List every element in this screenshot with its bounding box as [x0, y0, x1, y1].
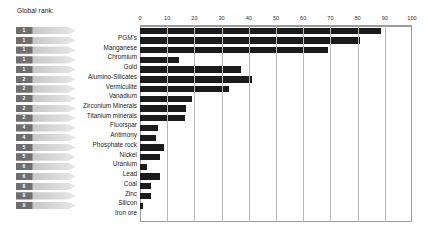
bar: [140, 154, 160, 160]
plot-area: [140, 26, 412, 222]
bar: [140, 105, 186, 111]
bar: [140, 76, 252, 82]
bar: [140, 203, 143, 209]
x-tick-label: 20: [191, 15, 197, 21]
bar: [140, 47, 328, 53]
rank-value: 2: [16, 76, 32, 83]
gridline: [249, 26, 250, 222]
bar: [140, 37, 360, 43]
x-tick-label: 30: [218, 15, 224, 21]
rank-value: 1: [16, 46, 32, 53]
bar: [140, 193, 151, 199]
category-row: Silicon: [58, 191, 137, 201]
chart-container: Global rank: 1111122222445566899 PGM'sMa…: [0, 0, 428, 245]
category-row: Zirconium Minerals: [58, 94, 137, 104]
category-row: Lead: [58, 162, 137, 172]
x-tick-label: 60: [300, 15, 306, 21]
rank-value: 4: [16, 124, 32, 131]
rank-value: 1: [16, 56, 32, 63]
category-row: Uranium: [58, 152, 137, 162]
category-row: Coal: [58, 172, 137, 182]
x-tick-label: 50: [273, 15, 279, 21]
bar: [140, 125, 158, 131]
rank-value: 4: [16, 134, 32, 141]
rank-value: 9: [16, 192, 32, 199]
rank-value: 6: [16, 173, 32, 180]
gridline: [303, 26, 304, 222]
bar: [140, 57, 179, 63]
x-tick-label: 90: [382, 15, 388, 21]
gridline: [276, 26, 277, 222]
x-tick-label: 70: [327, 15, 333, 21]
bar: [140, 173, 160, 179]
category-row: Gold: [58, 55, 137, 65]
x-axis-tick-labels: 0102030405060708090100: [140, 15, 412, 25]
category-label: Iron ore: [115, 208, 137, 218]
rank-value: 1: [16, 37, 32, 44]
category-label-column: PGM'sManganeseChromiumGoldAlumino-Silica…: [58, 26, 137, 211]
bar: [140, 86, 229, 92]
bar: [140, 144, 164, 150]
rank-value: 2: [16, 105, 32, 112]
gridline: [194, 26, 195, 222]
category-row: Titanium minerals: [58, 104, 137, 114]
bar: [140, 115, 185, 121]
category-row: PGM's: [58, 26, 137, 36]
bar: [140, 66, 241, 72]
gridline: [358, 26, 359, 222]
x-tick-label: 0: [138, 15, 141, 21]
rank-value: 5: [16, 153, 32, 160]
bar: [140, 164, 147, 170]
category-row: Vanadium: [58, 84, 137, 94]
rank-value: 2: [16, 85, 32, 92]
rank-value: 5: [16, 144, 32, 151]
category-row: Iron ore: [58, 201, 137, 211]
gridline: [385, 26, 386, 222]
bar: [140, 28, 381, 34]
bar: [140, 96, 192, 102]
category-row: Antimony: [58, 123, 137, 133]
rank-value: 8: [16, 183, 32, 190]
gridline: [222, 26, 223, 222]
category-row: Chromium: [58, 45, 137, 55]
rank-column-header: Global rank:: [17, 7, 54, 14]
bar: [140, 183, 151, 189]
category-row: Manganese: [58, 36, 137, 46]
rank-value: 6: [16, 163, 32, 170]
gridline: [167, 26, 168, 222]
rank-value: 2: [16, 95, 32, 102]
rank-value: 9: [16, 202, 32, 209]
x-tick-label: 80: [354, 15, 360, 21]
x-tick-label: 40: [246, 15, 252, 21]
category-row: Zinc: [58, 182, 137, 192]
gridline: [330, 26, 331, 222]
x-tick-label: 10: [164, 15, 170, 21]
rank-value: 2: [16, 114, 32, 121]
bar: [140, 135, 156, 141]
category-row: Phosphate rock: [58, 133, 137, 143]
rank-value: 1: [16, 27, 32, 34]
category-row: Alumino-Silicates: [58, 65, 137, 75]
rank-value: 1: [16, 66, 32, 73]
x-tick-label: 100: [407, 15, 416, 21]
